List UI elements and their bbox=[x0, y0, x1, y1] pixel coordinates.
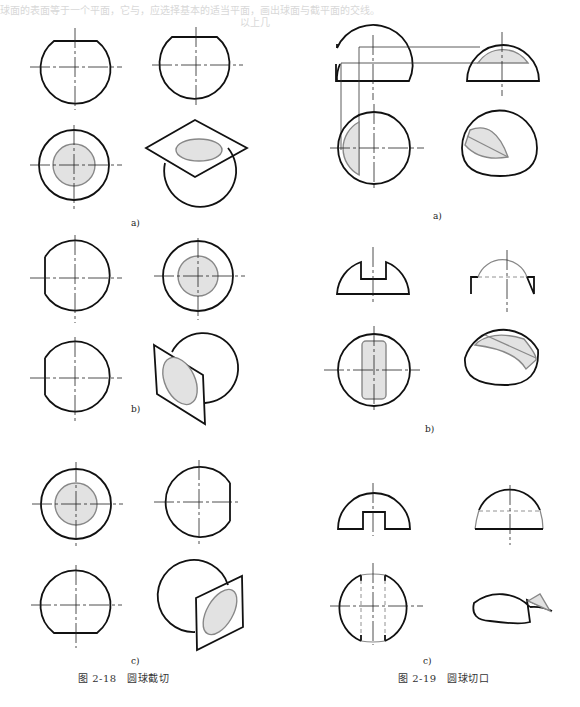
fig-2-19-label-c: c) bbox=[423, 656, 432, 666]
fig-2-18b-isometric-vertical-plane bbox=[154, 333, 238, 424]
fig-2-18-label-a: a) bbox=[131, 218, 140, 228]
fig-2-19-label-b: b) bbox=[425, 424, 434, 434]
fig-2-19b-front-view-slot bbox=[337, 247, 409, 302]
fig-2-19b-top-view-slot-section bbox=[324, 326, 420, 412]
fig-2-19c-top-view-notched-circle bbox=[330, 563, 423, 645]
fig-2-18a-front-view-truncated-sphere bbox=[30, 28, 122, 110]
fig-2-18a-top-view-circle-section bbox=[30, 125, 122, 210]
fig-2-19a-isometric-hemisphere bbox=[462, 111, 537, 177]
fig-2-18-label-c: c) bbox=[131, 656, 140, 666]
fig-2-19-caption: 图 2-19 圆球切口 bbox=[398, 670, 489, 685]
fig-2-18b-front-view bbox=[30, 235, 122, 323]
fig-2-19b-side-view-slot bbox=[471, 250, 534, 312]
fig-2-18c-side-view bbox=[154, 460, 238, 546]
fig-2-19c-isometric-notched-hemisphere bbox=[473, 594, 552, 623]
fig-2-18c-isometric-vertical-plane bbox=[158, 560, 244, 650]
fig-2-18-caption: 图 2-18 圆球截切 bbox=[78, 670, 169, 685]
fig-2-18-label-b: b) bbox=[131, 404, 140, 414]
fig-2-19a-side-view-hemisphere bbox=[467, 32, 539, 96]
fig-2-19a-top-view-circle bbox=[330, 104, 424, 190]
fig-2-18b-side-view-circle-section bbox=[154, 238, 245, 320]
fig-2-18a-side-view-truncated-sphere bbox=[152, 27, 243, 108]
fig-2-18c-front-view-circle-section bbox=[32, 462, 123, 548]
fig-2-19c-side-view bbox=[475, 485, 543, 545]
fig-2-18b-top-view bbox=[30, 337, 122, 422]
fig-2-18c-top-view bbox=[31, 565, 122, 648]
fig-2-19c-front-view-notch bbox=[338, 483, 410, 536]
technical-drawings bbox=[0, 0, 580, 707]
fig-2-19-label-a: a) bbox=[433, 211, 442, 221]
fig-2-18a-isometric-horizontal-plane bbox=[146, 120, 247, 207]
fig-2-19b-isometric-slotted-hemisphere bbox=[465, 330, 538, 385]
